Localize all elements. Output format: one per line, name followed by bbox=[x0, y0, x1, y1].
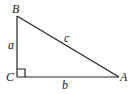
vertex-label-b: B bbox=[12, 2, 20, 16]
right-angle-marker-icon bbox=[17, 69, 25, 77]
side-label-c: c bbox=[64, 31, 70, 45]
side-label-a: a bbox=[8, 38, 14, 52]
side-label-b: b bbox=[62, 78, 68, 92]
vertex-label-a: A bbox=[119, 70, 128, 84]
right-triangle-diagram: B C A a b c bbox=[0, 0, 134, 94]
side-c-hypotenuse-line bbox=[17, 16, 119, 77]
vertex-label-c: C bbox=[6, 70, 15, 84]
